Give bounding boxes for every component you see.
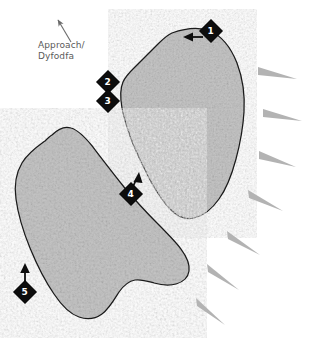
- route-marker-diamond[interactable]: 1: [200, 20, 223, 43]
- route-marker-2[interactable]: 2: [100, 74, 116, 90]
- slope-wedge: [263, 109, 302, 121]
- route-marker-diamond[interactable]: 3: [97, 90, 120, 113]
- slope-wedge: [227, 231, 260, 255]
- slope-wedge: [258, 67, 297, 79]
- approach-arrow-icon: [58, 20, 71, 42]
- route-marker-5[interactable]: 5: [17, 284, 33, 300]
- route-marker-label: 5: [22, 287, 28, 296]
- route-marker-label: 4: [128, 189, 134, 198]
- approach-label: Approach/ Dyfodfa: [38, 40, 100, 62]
- route-marker-label: 2: [105, 77, 111, 86]
- route-marker-label: 3: [105, 96, 111, 105]
- slope-wedge: [196, 298, 225, 325]
- slope-wedge: [207, 264, 239, 290]
- route-marker-diamond[interactable]: 5: [14, 281, 37, 304]
- route-marker-label: 1: [208, 26, 214, 35]
- slope-wedge: [259, 151, 296, 167]
- route-marker-1[interactable]: 1: [203, 23, 219, 39]
- route-marker-diamond[interactable]: 4: [120, 183, 143, 206]
- route-marker-4[interactable]: 4: [123, 186, 139, 202]
- slope-wedge: [248, 190, 283, 211]
- route-marker-3[interactable]: 3: [100, 93, 116, 109]
- topo-map: Approach/ Dyfodfa 1 2 3 4 5: [0, 0, 309, 343]
